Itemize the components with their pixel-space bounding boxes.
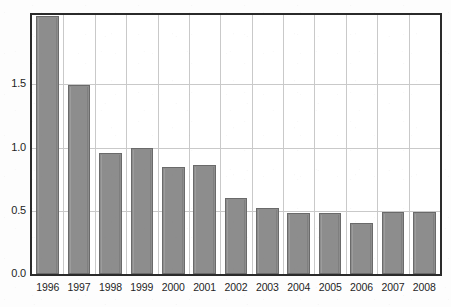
x-tick-label: 2007 (377, 281, 408, 293)
bar-chart: 0.00.51.01.5 199619971998199920002001200… (0, 0, 451, 307)
x-tick-label: 1998 (95, 281, 126, 293)
x-tick-label: 2003 (252, 281, 283, 293)
y-tick-label: 0.5 (0, 204, 26, 216)
x-tick-label: 2002 (220, 281, 251, 293)
y-tick-label: 0.0 (0, 267, 26, 279)
x-tick-label: 1999 (126, 281, 157, 293)
x-tick-label: 1997 (63, 281, 94, 293)
x-tick-label: 2006 (346, 281, 377, 293)
x-tick-label: 2000 (158, 281, 189, 293)
x-tick-label: 2001 (189, 281, 220, 293)
x-tick-label: 1996 (32, 281, 63, 293)
y-axis-tick-labels: 0.00.51.01.5 (0, 13, 451, 276)
y-tick-label: 1.0 (0, 141, 26, 153)
x-axis-tick-labels: 1996199719981999200020012002200320042005… (30, 281, 442, 301)
x-tick-label: 2005 (314, 281, 345, 293)
y-tick-label: 1.5 (0, 77, 26, 89)
x-tick-label: 2008 (409, 281, 440, 293)
x-tick-label: 2004 (283, 281, 314, 293)
